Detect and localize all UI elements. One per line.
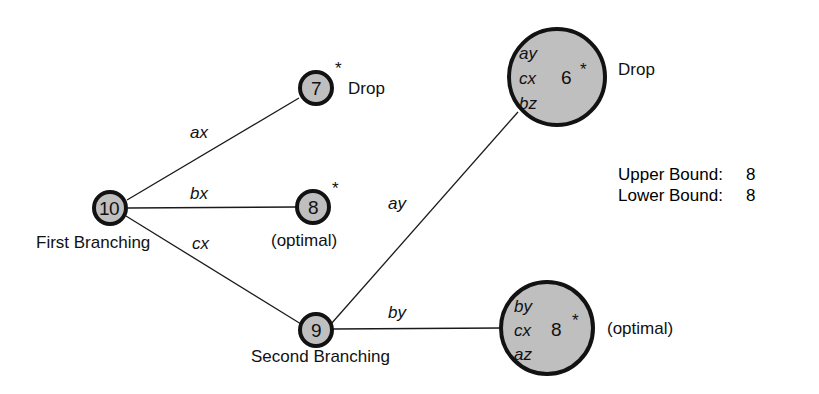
node-optimal-small-annotation: (optimal) <box>271 232 337 249</box>
upper-bound-label: Upper Bound: <box>618 165 746 185</box>
node-drop-big-star: * <box>580 61 587 78</box>
node-root-caption: First Branching <box>36 234 150 251</box>
node-optimal-big-value: 8 <box>551 320 562 339</box>
edge-root-to-optimal-small <box>128 207 296 208</box>
upper-bound-row: Upper Bound: 8 <box>618 165 818 185</box>
node-drop-small-annotation: Drop <box>348 80 385 97</box>
lower-bound-row: Lower Bound: 8 <box>618 186 818 206</box>
edge-label-cx: cx <box>192 235 209 252</box>
node-second-caption: Second Branching <box>251 348 390 365</box>
node-drop-big-set-1: cx <box>519 70 536 87</box>
edge-label-ay: ay <box>388 195 406 212</box>
edge-label-by: by <box>388 304 406 321</box>
node-drop-small-star: * <box>335 60 342 77</box>
edge-second-to-optimal-big <box>333 328 502 329</box>
node-drop-big-annotation: Drop <box>618 61 655 78</box>
node-root-value: 10 <box>99 199 119 218</box>
node-optimal-small-value: 8 <box>308 198 318 217</box>
edge-label-ax: ax <box>190 124 208 141</box>
node-optimal-big-set-0: by <box>514 298 532 315</box>
lower-bound-value: 8 <box>746 186 755 206</box>
node-drop-big-set-0: ay <box>519 45 537 62</box>
node-optimal-big-set-1: cx <box>514 322 531 339</box>
node-optimal-big-annotation: (optimal) <box>607 320 673 337</box>
edge-label-bx: bx <box>190 185 208 202</box>
branch-and-bound-diagram: 10 7 8 9 * * First Branching Second Bran… <box>0 0 819 394</box>
upper-bound-value: 8 <box>746 165 755 185</box>
node-drop-big-value: 6 <box>561 68 572 87</box>
node-optimal-big-set-2: az <box>514 346 532 363</box>
node-second-value: 9 <box>311 321 321 340</box>
edge-second-to-drop-big <box>331 112 518 324</box>
edge-root-to-drop-small <box>127 98 299 200</box>
node-optimal-small-star: * <box>332 180 339 197</box>
node-drop-big-set-2: bz <box>519 95 537 112</box>
lower-bound-label: Lower Bound: <box>618 186 746 206</box>
node-drop-small-value: 7 <box>311 79 321 98</box>
node-optimal-big-star: * <box>572 312 579 329</box>
